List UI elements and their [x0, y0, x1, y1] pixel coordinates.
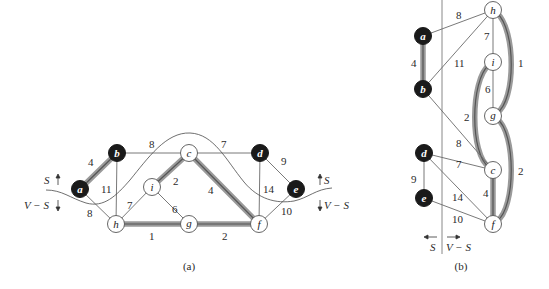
weight-d-c: 7 [456, 158, 462, 170]
node-a: a [415, 28, 432, 45]
arrow-up-icon [318, 174, 322, 185]
node-i: i [144, 179, 161, 196]
weight-e-f: 10 [452, 213, 464, 225]
weight-d-e: 9 [411, 173, 417, 185]
node-h: h [485, 2, 502, 19]
caption-b: (b) [455, 260, 468, 273]
node-b: b [415, 81, 432, 98]
svg-text:h: h [490, 4, 496, 16]
weight-g-h: 1 [149, 230, 155, 242]
weight-b-h: 11 [454, 57, 465, 69]
weight-g-i: 6 [172, 203, 178, 215]
svg-text:d: d [421, 147, 427, 159]
node-c: c [485, 162, 502, 179]
weight-c-f: 4 [208, 184, 214, 196]
node-i: i [485, 54, 502, 71]
node-d: d [252, 145, 269, 162]
node-g: g [181, 216, 198, 233]
weight-d-f: 14 [263, 183, 275, 195]
svg-text:a: a [77, 183, 83, 195]
weight-b-c: 8 [456, 137, 462, 149]
svg-text:i: i [491, 56, 494, 68]
weight-h-i: 7 [484, 30, 490, 42]
label-s-left: S [44, 174, 50, 186]
node-f: f [251, 216, 268, 233]
weight-c-i: 2 [173, 175, 179, 187]
weight-d-f: 14 [452, 191, 464, 203]
weight-a-b: 4 [88, 156, 94, 168]
arrow-left-icon [424, 235, 437, 239]
label-s: S [430, 241, 436, 253]
svg-text:g: g [490, 109, 496, 121]
node-g: g [485, 108, 502, 125]
panel-b: 4 8 11 8 7 1 6 2 2 7 9 14 4 10 a b [411, 0, 524, 273]
weight-c-d: 7 [221, 138, 227, 150]
panel-a-cut-labels-right: S V − S [318, 174, 349, 211]
svg-text:g: g [186, 217, 192, 229]
svg-text:e: e [422, 192, 427, 204]
svg-text:b: b [420, 83, 426, 95]
svg-text:a: a [420, 30, 426, 42]
label-v-minus-s: V − S [446, 241, 471, 253]
weight-h-i: 7 [127, 199, 133, 211]
node-b: b [109, 145, 126, 162]
svg-text:b: b [114, 147, 120, 159]
weight-d-e: 9 [281, 155, 287, 167]
node-d: d [416, 145, 433, 162]
weight-f-g: 2 [222, 230, 228, 242]
weight-a-h: 8 [87, 207, 93, 219]
svg-text:e: e [294, 183, 299, 195]
panel-b-cut-labels: S V − S [424, 235, 471, 253]
label-v-minus-s-right: V − S [324, 199, 349, 211]
svg-text:h: h [113, 218, 119, 230]
arrow-down-icon [318, 200, 322, 211]
panel-a-cut-labels-left: S V − S [24, 174, 60, 211]
caption-a: (a) [183, 260, 196, 273]
panel-a: 4 8 8 11 7 2 4 9 14 10 2 1 6 7 a b [24, 133, 349, 273]
weight-i-g: 6 [485, 83, 491, 95]
label-s-right: S [324, 174, 330, 186]
node-e: e [416, 190, 433, 207]
arrow-up-icon [56, 174, 60, 185]
mst-cut-figure: 4 8 8 11 7 2 4 9 14 10 2 1 6 7 a b [0, 0, 549, 289]
weight-i-c: 2 [464, 111, 470, 123]
svg-text:d: d [257, 147, 263, 159]
node-f: f [485, 216, 502, 233]
svg-text:c: c [187, 147, 192, 159]
weight-c-f: 4 [483, 187, 489, 199]
node-e: e [288, 181, 305, 198]
label-v-minus-s-left: V − S [24, 199, 49, 211]
weight-a-h: 8 [456, 9, 462, 21]
node-h: h [108, 216, 125, 233]
weight-b-c: 8 [149, 138, 155, 150]
weight-e-f: 10 [281, 205, 293, 217]
node-c: c [181, 145, 198, 162]
weight-a-b: 4 [411, 57, 417, 69]
svg-text:i: i [150, 181, 153, 193]
weight-b-h: 11 [101, 183, 112, 195]
node-a: a [72, 181, 89, 198]
svg-text:c: c [491, 164, 496, 176]
weight-g-f: 2 [518, 165, 524, 177]
arrow-right-icon [447, 235, 460, 239]
arrow-down-icon [56, 200, 60, 211]
weight-h-g: 1 [518, 57, 524, 69]
